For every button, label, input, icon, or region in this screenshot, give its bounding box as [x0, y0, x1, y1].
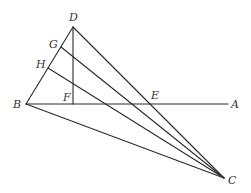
label-E: E — [150, 89, 159, 102]
label-B: B — [12, 98, 21, 111]
label-A: A — [230, 98, 239, 111]
label-H: H — [35, 58, 46, 71]
segment-DC — [73, 27, 224, 178]
segment-HC — [48, 68, 224, 178]
label-G: G — [49, 38, 58, 51]
segment-GC — [61, 47, 224, 178]
label-F: F — [62, 91, 71, 104]
label-C: C — [228, 174, 237, 187]
segment-BC — [26, 104, 224, 178]
geometry-diagram: D G H B F E A C — [0, 0, 251, 193]
label-D: D — [68, 11, 78, 24]
